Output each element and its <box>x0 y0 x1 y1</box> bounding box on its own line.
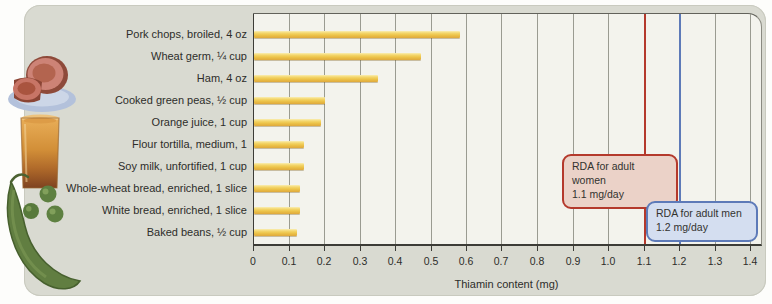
tick-label: 0.9 <box>556 255 590 267</box>
gridline <box>395 14 396 244</box>
category-label: White bread, enriched, 1 slice <box>24 202 247 218</box>
tick-label: 0.4 <box>378 255 412 267</box>
tick-mark <box>466 245 467 251</box>
category-label: Baked beans, ½ cup <box>24 224 247 240</box>
tick-label: 0.2 <box>307 255 341 267</box>
gridline <box>360 14 361 244</box>
tick-mark <box>608 245 609 251</box>
gridline <box>466 14 467 244</box>
bar <box>254 119 321 126</box>
gridline <box>431 14 432 244</box>
x-axis-ticks: 00.10.20.30.40.50.60.70.80.91.01.11.21.3… <box>253 243 760 283</box>
tick-mark <box>750 245 751 251</box>
bar <box>254 141 304 148</box>
category-label: Whole-wheat bread, enriched, 1 slice <box>24 180 247 196</box>
rda-women-label: RDA for adult women <box>572 160 668 188</box>
tick-label: 1.2 <box>662 255 696 267</box>
tick-mark <box>501 245 502 251</box>
bar <box>254 163 304 170</box>
tick-label: 0.7 <box>484 255 518 267</box>
tick-mark <box>679 245 680 251</box>
category-label: Wheat germ, ¼ cup <box>24 48 247 64</box>
tick-mark <box>573 245 574 251</box>
rda-men-value: 1.2 mg/day <box>656 221 748 235</box>
category-label: Soy milk, unfortified, 1 cup <box>24 158 247 174</box>
tick-mark <box>324 245 325 251</box>
category-labels: Pork chops, broiled, 4 ozWheat germ, ¼ c… <box>24 13 247 243</box>
category-label: Cooked green peas, ½ cup <box>24 92 247 108</box>
tick-mark <box>431 245 432 251</box>
tick-label: 1.0 <box>591 255 625 267</box>
category-label: Ham, 4 oz <box>24 70 247 86</box>
rda-men-callout: RDA for adult men 1.2 mg/day <box>646 201 758 242</box>
bar <box>254 97 325 104</box>
x-axis-title: Thiamin content (mg) <box>253 278 760 290</box>
tick-label: 1.3 <box>698 255 732 267</box>
gridline <box>324 14 325 244</box>
gridline <box>608 14 609 244</box>
bar <box>254 31 460 38</box>
tick-mark <box>715 245 716 251</box>
gridline <box>573 14 574 244</box>
bar <box>254 185 300 192</box>
rda-women-value: 1.1 mg/day <box>572 188 668 202</box>
gridline <box>501 14 502 244</box>
tick-mark <box>360 245 361 251</box>
tick-label: 0.1 <box>272 255 306 267</box>
bar <box>254 207 300 214</box>
category-label: Orange juice, 1 cup <box>24 114 247 130</box>
rda-men-label: RDA for adult men <box>656 207 748 221</box>
tick-label: 0.5 <box>414 255 448 267</box>
tick-label: 1.1 <box>627 255 661 267</box>
category-label: Flour tortilla, medium, 1 <box>24 136 247 152</box>
tick-mark <box>644 245 645 251</box>
tick-mark <box>537 245 538 251</box>
tick-mark <box>289 245 290 251</box>
tick-label: 1.4 <box>733 255 767 267</box>
tick-label: 0.8 <box>520 255 554 267</box>
tick-label: 0.6 <box>449 255 483 267</box>
tick-mark <box>395 245 396 251</box>
tick-label: 0.3 <box>343 255 377 267</box>
tick-mark <box>253 245 254 251</box>
figure-thiamin-chart: Pork chops, broiled, 4 ozWheat germ, ¼ c… <box>0 0 772 304</box>
bar <box>254 53 421 60</box>
category-label: Pork chops, broiled, 4 oz <box>24 26 247 42</box>
bar <box>254 229 297 236</box>
gridline <box>537 14 538 244</box>
bar <box>254 75 378 82</box>
tick-label: 0 <box>236 255 270 267</box>
